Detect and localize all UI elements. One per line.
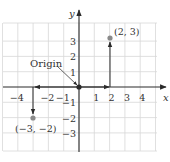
point-neg3-neg2-label: (−3, −2) (15, 123, 56, 134)
point-2-3-label: (2, 3) (114, 26, 140, 37)
origin-point (76, 84, 81, 89)
point-2-3 (107, 35, 112, 40)
y-axis-label: y (68, 8, 75, 19)
x-tick-label: −4 (10, 92, 24, 103)
point-neg3-neg2 (30, 115, 35, 120)
x-tick-labels: −4−2−11234 (10, 92, 145, 103)
y-tick-label: 3 (70, 36, 76, 47)
x-tick-label: 1 (93, 92, 99, 103)
y-tick-label: −2 (62, 113, 76, 124)
y-tick-label: 1 (70, 67, 76, 78)
x-tick-label: −2 (40, 92, 54, 103)
x-tick-label: 4 (139, 92, 145, 103)
x-tick-label: 3 (124, 92, 130, 103)
x-axis-label: x (163, 92, 169, 103)
x-tick-label: 2 (109, 92, 115, 103)
y-tick-label: 2 (70, 51, 76, 62)
coordinate-plane: x y −4−2−11234 321−1−2−3 Origin (2, 3) (… (0, 0, 170, 162)
y-tick-label: −1 (62, 97, 76, 108)
y-tick-label: −3 (62, 128, 76, 139)
origin-label: Origin (30, 58, 63, 69)
